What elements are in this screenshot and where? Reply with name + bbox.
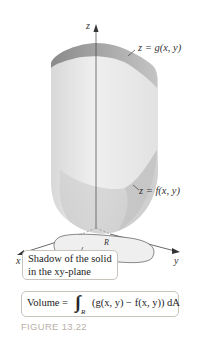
volume-expression: (g(x, y) − f(x, y)) dA: [92, 297, 180, 308]
region-label: R: [104, 238, 109, 247]
integral-subscript: R: [81, 308, 85, 316]
shadow-callout-line1: Shadow of the solid: [28, 252, 117, 265]
y-axis-arrow: [172, 248, 180, 254]
x-axis-label: x: [16, 255, 20, 266]
z-axis-arrow: [94, 24, 99, 32]
figure-caption: FIGURE 13.22: [21, 321, 87, 332]
z-axis-label: z: [86, 20, 90, 31]
top-surface-label: z = g(x, y): [138, 42, 181, 53]
volume-formula-box: Volume = ∫∫ R (g(x, y) − f(x, y)) dA: [21, 291, 179, 317]
y-axis-label: y: [174, 255, 178, 266]
double-integral-sign: ∫∫: [75, 292, 77, 313]
bottom-surface-label: z = f(x, y): [139, 185, 180, 196]
shadow-callout-line2: in the xy-plane: [28, 265, 117, 278]
volume-prefix: Volume =: [27, 297, 68, 308]
shadow-callout: Shadow of the solid in the xy-plane: [22, 250, 118, 280]
